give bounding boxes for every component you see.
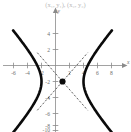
y-tick-label: -10	[43, 127, 51, 132]
y-tick-label: 2	[47, 47, 50, 53]
y-axis-tick-labels: 4 2 -2 -4 -6 -8 -10	[43, 31, 51, 132]
y-axis-label: y	[57, 8, 61, 14]
plot-area: x y -6 -4 -2 2 4 6 8	[0, 0, 131, 132]
y-tick-label: 4	[47, 31, 50, 37]
x-tick-label: 8	[110, 70, 113, 76]
x-axis: x	[3, 59, 130, 69]
hyperbola-right-branch	[84, 30, 112, 132]
center-point-marker	[59, 78, 65, 84]
hyperbola-left-branch	[13, 30, 41, 132]
y-tick-label: -2	[45, 79, 50, 85]
x-tick-label: -4	[25, 70, 30, 76]
y-tick-label: -6	[45, 111, 50, 117]
x-axis-label: x	[126, 59, 130, 65]
x-tick-label: -6	[11, 70, 16, 76]
hyperbola-figure: (x₁, y₁), (x₂, y₂) x y -6 -4 -2	[0, 0, 131, 132]
x-tick-label: 6	[96, 70, 99, 76]
y-tick-label: -4	[45, 95, 50, 101]
x-axis-tick-labels: -6 -4 -2 2 4 6 8	[11, 70, 113, 76]
